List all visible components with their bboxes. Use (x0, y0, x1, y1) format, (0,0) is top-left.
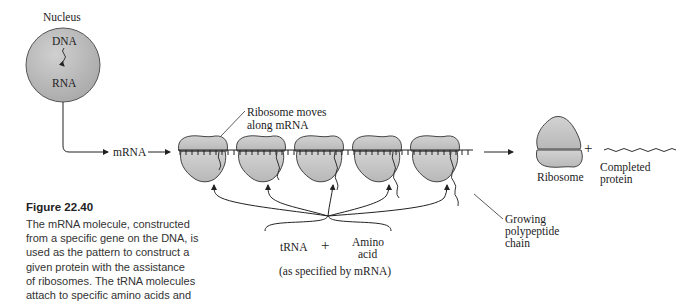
caption-line: given protein with the assistance (26, 260, 226, 274)
caption-line: of ribosomes. The tRNA molecules (26, 274, 226, 288)
ribosome-2 (237, 136, 286, 182)
brace (265, 216, 391, 231)
export-path (63, 102, 108, 152)
ribosome-1 (179, 136, 228, 182)
caption-line: attach to specific amino acids and (26, 288, 226, 302)
figure-title: Figure 22.40 (26, 201, 93, 213)
released-ribosome-label: Ribosome (537, 171, 584, 183)
trna-plus-sign: + (321, 239, 329, 251)
plus-sign: + (584, 142, 592, 154)
completed-protein-chain (604, 149, 676, 152)
ribosome-4 (353, 136, 402, 182)
growing-chain-line2: polypeptide (505, 225, 559, 237)
growing-chain-line1: Growing (505, 213, 546, 225)
nucleus-label: Nucleus (43, 11, 81, 23)
growing-chain-line3: chain (505, 237, 530, 249)
amino-acid-line1: Amino (352, 236, 384, 248)
released-ribosome (536, 116, 582, 167)
caption-line: from a specific gene on the DNA, is (26, 231, 226, 245)
ribosome-callout-line (221, 111, 245, 136)
caption-line: used as the pattern to construct a (26, 245, 226, 259)
specified-note: (as specified by mRNA) (279, 265, 391, 277)
completed-protein-line1: Completed (600, 161, 650, 173)
mrna-label: mRNA (113, 146, 146, 158)
trna-label: tRNA (280, 241, 307, 253)
ribosome-5 (411, 136, 460, 182)
growing-chain-callout-line (474, 194, 503, 219)
caption-line: The mRNA molecule, constructed (26, 217, 226, 231)
rna-label: RNA (52, 77, 76, 89)
dna-label: DNA (52, 35, 77, 47)
amino-acid-line2: acid (358, 248, 377, 260)
ribosome-callout-line2: along mRNA (247, 119, 309, 131)
figure-caption: The mRNA molecule, constructed from a sp… (26, 217, 226, 302)
trna-delivery-arrows (214, 185, 447, 216)
completed-protein-line2: protein (600, 173, 633, 185)
ribosome-callout-line1: Ribosome moves (247, 106, 327, 118)
ribosome-3 (295, 136, 344, 182)
